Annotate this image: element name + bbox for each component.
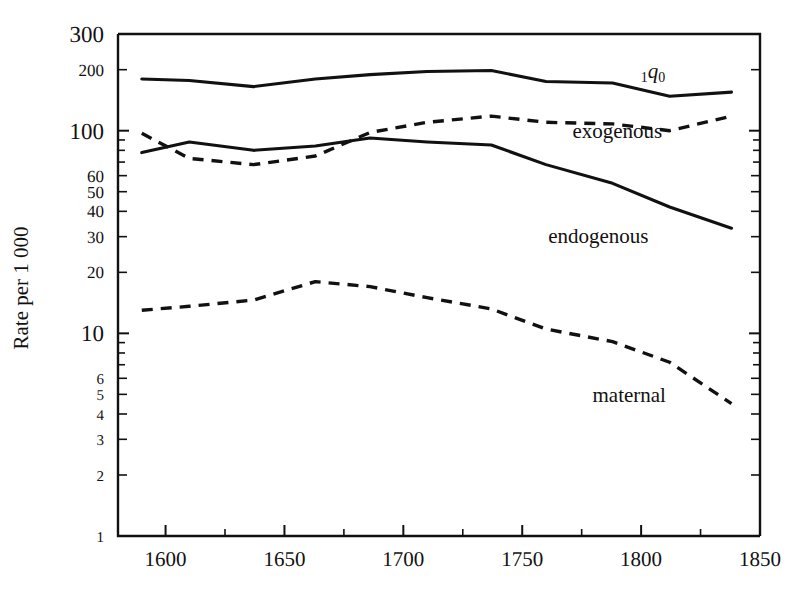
series-label-maternal: maternal (592, 383, 666, 407)
y-tick-label-1: 1 (97, 530, 105, 546)
y-axis-title: Rate per 1 000 (9, 226, 33, 349)
y-tick-label-200: 200 (79, 61, 105, 80)
y-tick-label-100: 100 (70, 119, 105, 144)
y-tick-label-300: 300 (70, 22, 105, 47)
y-tick-label-30: 30 (87, 228, 104, 247)
y-tick-label-3: 3 (97, 433, 105, 449)
y-axis-title-group: Rate per 1 000 (9, 226, 33, 349)
series-label-1q0: 1q0 (641, 59, 666, 85)
y-tick-label-4: 4 (97, 408, 105, 424)
x-tick-label-1700: 1700 (382, 547, 424, 571)
x-tick-label-1850: 1850 (739, 547, 781, 571)
y-tick-label-6: 6 (97, 372, 105, 388)
x-axis-ticks: 160016501700175018001850 (145, 525, 781, 571)
x-tick-label-1800: 1800 (620, 547, 662, 571)
series-label-endogenous: endogenous (548, 224, 648, 248)
x-tick-label-1750: 1750 (501, 547, 543, 571)
y-axis-ticks: 123456102030405060100200300 (70, 22, 761, 546)
y-tick-label-60: 60 (87, 167, 104, 186)
y-tick-label-20: 20 (87, 263, 104, 282)
y-tick-label-10: 10 (81, 321, 104, 346)
y-tick-label-40: 40 (87, 202, 104, 221)
chart-figure: Rate per 1 000 1234561020304050601002003… (0, 0, 799, 589)
plot-frame-top-right (118, 34, 760, 536)
plot-axis-frame (118, 34, 760, 536)
y-tick-label-5: 5 (97, 388, 105, 404)
series-line-endogenous (142, 138, 732, 228)
y-tick-label-2: 2 (97, 469, 105, 485)
x-tick-label-1600: 1600 (145, 547, 187, 571)
x-tick-label-1650: 1650 (263, 547, 305, 571)
infant-mortality-line-chart: Rate per 1 000 1234561020304050601002003… (0, 0, 799, 589)
series-label-exogenous: exogenous (572, 119, 662, 143)
